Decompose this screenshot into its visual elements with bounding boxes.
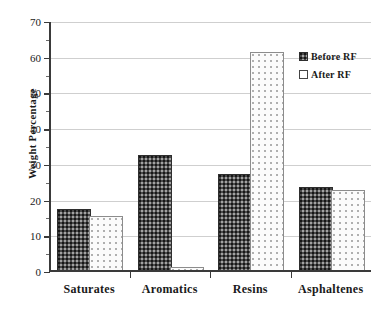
x-axis-tick <box>130 272 131 278</box>
y-axis-tick-label: 10 <box>30 230 41 242</box>
bar-after-rf <box>331 190 365 272</box>
legend-label: After RF <box>311 69 351 80</box>
legend-swatch-icon <box>299 70 308 79</box>
bar-after-rf <box>250 52 284 272</box>
bar-group <box>218 22 282 272</box>
y-axis-tick <box>44 272 50 273</box>
x-axis-category-label: Asphaltenes <box>298 282 363 297</box>
legend-swatch-icon <box>299 52 308 61</box>
legend-item: After RF <box>299 69 357 80</box>
y-axis-tick-label: 50 <box>30 87 41 99</box>
x-axis-category-label: Aromatics <box>142 282 198 297</box>
legend-label: Before RF <box>311 51 357 62</box>
bar-chart: Weight Percentage 010203040506070 Satura… <box>0 0 386 314</box>
bar-before-rf <box>57 209 91 272</box>
x-axis-tick <box>210 272 211 278</box>
bar-before-rf <box>138 155 172 272</box>
bar-after-rf <box>89 216 123 272</box>
y-axis-line <box>49 22 51 272</box>
x-axis-line <box>49 270 371 272</box>
x-axis-category-label: Resins <box>233 282 268 297</box>
x-axis-category-label: Saturates <box>64 282 115 297</box>
y-axis-tick-label: 30 <box>30 159 41 171</box>
y-axis-tick-label: 60 <box>30 52 41 64</box>
bar-group <box>57 22 121 272</box>
bar-group <box>138 22 202 272</box>
legend-item: Before RF <box>299 51 357 62</box>
bar-before-rf <box>299 187 333 272</box>
y-axis-tick-label: 20 <box>30 195 41 207</box>
bar-before-rf <box>218 174 252 272</box>
y-axis-tick-label: 0 <box>36 266 42 278</box>
y-axis-tick-label: 40 <box>30 123 41 135</box>
y-axis-tick-label: 70 <box>30 16 41 28</box>
chart-legend: Before RFAfter RF <box>299 51 357 87</box>
x-axis-tick <box>291 272 292 278</box>
